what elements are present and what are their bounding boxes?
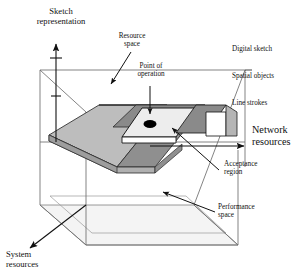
- point-of-operation-dot: [144, 120, 157, 128]
- axis-label-network-resources: Network resources: [252, 124, 302, 148]
- surface-step-right-side: [226, 105, 237, 136]
- axis-label-sketch-representation: Sketch representation: [12, 6, 110, 26]
- stepped-surface-group: [49, 105, 237, 173]
- figure-root: Sketch representation Resource space Poi…: [0, 0, 302, 280]
- axis-label-system-resources: System resources: [6, 249, 76, 269]
- callout-label-point-of-operation: Point of operation: [124, 62, 178, 79]
- surface-step-right-notch: [206, 112, 226, 136]
- callout-label-performance-space: Performance space: [218, 203, 296, 220]
- axis-value-label-digital-sketch: Digital sketch: [232, 45, 302, 53]
- box-right-depth-top: [194, 70, 245, 205]
- axis-value-label-line-strokes: Line strokes: [232, 99, 302, 107]
- box-floor-group: [40, 196, 238, 245]
- acceptance-region-lip: [122, 137, 176, 143]
- box-floor-face: [40, 205, 238, 245]
- axis-value-label-spatial-objects: Spatial objects: [232, 72, 302, 80]
- callout-label-resource-space: Resource space: [104, 32, 160, 49]
- box-left-depth-top: [40, 70, 86, 112]
- callout-label-acceptance-region: Acceptance region: [224, 160, 294, 177]
